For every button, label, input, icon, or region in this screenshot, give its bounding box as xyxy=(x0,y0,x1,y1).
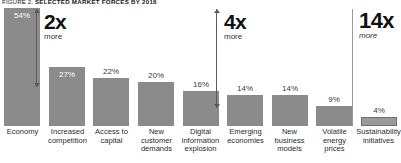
callout-multiplier: 4x xyxy=(224,12,246,31)
bar[interactable] xyxy=(272,95,308,126)
category-label: Digital information explosion xyxy=(178,128,223,154)
bar-value-label: 22% xyxy=(93,67,129,76)
category-label: Access to capital xyxy=(89,128,134,145)
category-label: New business models xyxy=(267,128,312,154)
bracket-arrow-bottom xyxy=(214,104,220,108)
bar[interactable] xyxy=(316,106,352,126)
callout-4x: 4x more xyxy=(224,12,246,41)
bar[interactable] xyxy=(138,82,174,126)
bar-value-label: 20% xyxy=(138,71,174,80)
category-label: Increased competition xyxy=(45,128,90,145)
bracket-arrow-top xyxy=(214,9,220,13)
bar[interactable] xyxy=(361,117,397,126)
bar-value-label: 4% xyxy=(361,106,397,115)
callout-caption: more xyxy=(44,32,66,41)
bracket-4x xyxy=(212,9,221,108)
bar-value-label: 14% xyxy=(227,84,263,93)
bracket-2x xyxy=(32,9,41,87)
bracket-stem xyxy=(36,9,37,87)
category-label-group: EconomyIncreased competitionAccess to ca… xyxy=(0,128,401,163)
category-label: Volatile energy prices xyxy=(312,128,357,154)
callout-14x: 14x more xyxy=(359,11,394,40)
bracket-stem xyxy=(216,9,217,108)
bracket-arrow-bottom xyxy=(34,83,40,87)
category-label: Sustainability initiatives xyxy=(356,128,401,145)
bar-slot: 20% xyxy=(138,0,174,126)
category-label: New customer demands xyxy=(134,128,179,154)
category-label: Emerging economies xyxy=(223,128,268,145)
callout-caption: more xyxy=(224,32,246,41)
callout-multiplier: 2x xyxy=(44,12,66,31)
bar[interactable] xyxy=(227,95,263,126)
category-label: Economy xyxy=(0,128,45,137)
bracket-arrow-top xyxy=(34,9,40,13)
bar-value-label: 9% xyxy=(316,95,352,104)
bar-value-label: 14% xyxy=(272,84,308,93)
callout-multiplier: 14x xyxy=(359,11,394,30)
bar-slot: 9% xyxy=(316,0,352,126)
chart-plot-area: 54%27%22%20%16%14%14%9%4% 2x more 4x mor… xyxy=(0,0,401,126)
bar[interactable] xyxy=(93,78,129,126)
callout-2x: 2x more xyxy=(44,12,66,41)
bar-slot: 22% xyxy=(93,0,129,126)
bar-slot: 14% xyxy=(272,0,308,126)
figure-container: FIGURE 2. SELECTED MARKET FORCES BY 2018… xyxy=(0,0,401,163)
separator-line xyxy=(352,9,353,126)
bar-value-label: 27% xyxy=(49,70,85,79)
